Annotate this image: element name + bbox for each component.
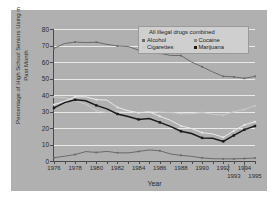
data-point [201,66,203,68]
chart-legend[interactable]: All illegal drugs combined Alcohol Cocai… [138,26,249,54]
data-point [138,112,140,114]
x-tick-label: 1988 [170,165,192,172]
x-tick-label: 1982 [106,165,128,172]
x-tick-mark [107,161,108,164]
data-point [254,75,256,77]
data-point [244,124,246,126]
series-cocaine [53,150,256,160]
legend-marker-marijuana [194,46,197,49]
data-point [180,125,182,127]
data-point [74,41,76,43]
x-tick-mark [96,161,97,164]
x-tick-mark [181,161,182,164]
legend-label-alcohol: Alcohol [147,37,166,44]
data-point [201,112,203,114]
data-point [180,55,182,57]
x-tick-mark [149,161,150,164]
data-point [137,118,139,120]
data-point [117,152,119,154]
data-point [53,107,55,109]
data-point [95,99,97,101]
x-tick-label: 1980 [85,165,107,172]
x-tick-mark [223,161,224,164]
data-point [116,113,118,115]
legend-label-marijuana: Marijuana [199,44,224,51]
data-point [95,41,97,43]
x-tick-mark [65,161,66,164]
legend-entry-cigarettes[interactable]: Cigarettes [142,44,194,51]
x-tick-mark [160,161,161,164]
series-line [54,97,255,137]
x-tick-label: 1995 [244,173,266,180]
x-tick-mark [128,161,129,164]
series-all-illegal-drugs-combined [53,96,256,138]
x-axis-title: Year [54,180,255,187]
y-tick-label: 70 [33,42,49,49]
legend-label-all-illegal-drugs: All illegal drugs combined [142,29,215,36]
data-point [222,114,224,116]
x-tick-label: 1978 [64,165,86,172]
legend-entry-marijuana[interactable]: Marijuana [194,44,246,51]
year-bracket-1994 [228,164,245,172]
data-point [233,130,235,132]
data-point [74,96,76,98]
data-point [244,109,246,111]
x-tick-mark [75,161,76,164]
legend-label-cocaine: Cocaine [199,37,220,44]
series-line [54,150,255,159]
x-tick-mark [255,161,256,164]
data-point [117,106,119,108]
data-point [117,111,119,113]
data-point [74,154,76,156]
y-tick-label: 30 [33,108,49,115]
data-point [254,125,256,127]
legend-row-1: Alcohol Cocaine [142,37,245,45]
data-point [243,128,245,130]
data-point [95,104,97,106]
data-point [180,113,182,115]
data-point [95,152,97,154]
x-tick-mark [54,161,55,164]
data-point [201,137,203,139]
data-point [254,121,256,123]
legend-label-cigarettes: Cigarettes [147,44,173,51]
x-tick-label: 1976 [43,165,65,172]
x-tick-label: 1993 [223,173,245,180]
x-tick-mark [117,161,118,164]
data-point [222,75,224,77]
legend-entry-cocaine[interactable]: Cocaine [194,37,246,44]
x-tick-label: 1990 [191,165,213,172]
data-point [244,77,246,79]
x-tick-mark [192,161,193,164]
data-point [180,130,182,132]
data-point [233,111,235,113]
data-point [159,115,161,117]
data-point [95,110,97,112]
x-tick-mark [170,161,171,164]
data-point [53,47,55,49]
chart-figure: Percentage of High School Seniors Using … [0,0,278,200]
data-point [117,45,119,47]
data-point [233,134,235,136]
x-tick-mark [139,161,140,164]
data-point [53,104,55,106]
y-tick-label: 10 [33,141,49,148]
y-tick-label: 20 [33,125,49,132]
y-tick-label: 40 [33,92,49,99]
y-tick-label: 50 [33,75,49,82]
legend-entry-alcohol[interactable]: Alcohol [142,37,194,44]
data-point [201,132,203,134]
data-point [254,105,256,107]
data-point [233,76,235,78]
series-line [54,100,255,142]
data-point [222,158,224,160]
data-point [244,158,246,160]
x-axis-line [53,161,256,162]
x-tick-label: 1986 [149,165,171,172]
data-point [159,121,161,123]
series-line [54,97,255,115]
legend-row-0: All illegal drugs combined [142,29,245,37]
legend-row-2: Cigarettes Marijuana [142,44,245,52]
legend-marker-cigarettes [142,46,145,49]
x-tick-label: 1984 [128,165,150,172]
